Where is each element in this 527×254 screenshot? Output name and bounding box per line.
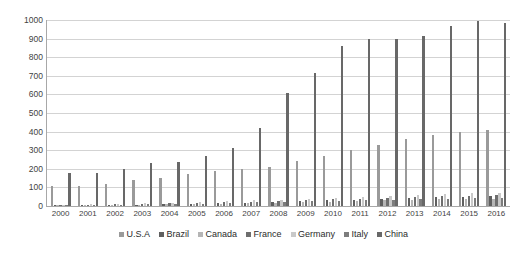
bar [141, 204, 143, 206]
bar [123, 169, 125, 206]
bar [241, 169, 243, 206]
bar-group [483, 20, 510, 206]
bar [277, 201, 279, 206]
bar-group [347, 20, 374, 206]
bar [389, 196, 391, 206]
bar [93, 205, 95, 206]
bar [329, 202, 331, 206]
bar [51, 186, 53, 206]
bar-group [401, 20, 428, 206]
y-axis-tick-label: 600 [2, 90, 43, 99]
bar [365, 200, 367, 206]
bar [450, 26, 452, 206]
bar [150, 163, 152, 206]
bar [202, 204, 204, 206]
bar [220, 204, 222, 206]
bar [323, 156, 325, 206]
bar [356, 201, 358, 206]
bar [435, 197, 437, 206]
y-axis-tick-label: 100 [2, 183, 43, 192]
bar [477, 21, 479, 206]
x-axis-tick-label: 2014 [428, 209, 455, 218]
gridline [47, 206, 510, 207]
legend-swatch-icon [198, 232, 203, 237]
bar [465, 199, 467, 206]
bar [147, 204, 149, 206]
x-axis-tick-label: 2009 [292, 209, 319, 218]
bar [438, 199, 440, 206]
y-axis-tick-label: 900 [2, 35, 43, 44]
bar-group [456, 20, 483, 206]
bar [159, 178, 161, 206]
x-axis-tick-label: 2011 [347, 209, 374, 218]
bar [214, 171, 216, 206]
bar [190, 204, 192, 206]
bar [271, 202, 273, 206]
bar [362, 197, 364, 206]
bar [259, 128, 261, 206]
bar [299, 201, 301, 206]
y-axis-tick-label: 400 [2, 128, 43, 137]
bar [498, 193, 500, 206]
bar [171, 203, 173, 206]
legend-item[interactable]: Germany [291, 230, 336, 239]
y-axis-tick-label: 300 [2, 146, 43, 155]
bar [501, 198, 503, 206]
x-axis-tick-label: 2006 [210, 209, 237, 218]
x-axis-tick-label: 2004 [156, 209, 183, 218]
bar-group [101, 20, 128, 206]
y-axis-tick-label: 0 [2, 202, 43, 211]
chart-legend: U.S.ABrazilCanadaFranceGermanyItalyChina [0, 230, 527, 239]
bar [229, 203, 231, 206]
bar [486, 130, 488, 206]
bar [117, 204, 119, 206]
legend-swatch-icon [119, 232, 124, 237]
bar-group [374, 20, 401, 206]
legend-item[interactable]: Brazil [159, 230, 189, 239]
legend-item[interactable]: U.S.A [119, 230, 150, 239]
y-axis-tick-label: 200 [2, 165, 43, 174]
x-axis-tick-label: 2007 [238, 209, 265, 218]
bar [250, 202, 252, 206]
legend-item[interactable]: France [246, 230, 282, 239]
bar [489, 196, 491, 206]
bar [350, 150, 352, 206]
y-axis-tick-label: 500 [2, 109, 43, 118]
bar [84, 205, 86, 206]
bar [96, 173, 98, 206]
bar-group [47, 20, 74, 206]
bar-group [183, 20, 210, 206]
bar [244, 203, 246, 206]
x-axis-tick-label: 2015 [456, 209, 483, 218]
bar [56, 205, 58, 206]
legend-swatch-icon [246, 232, 251, 237]
bar [283, 202, 285, 206]
bar [247, 203, 249, 206]
bar [302, 202, 304, 206]
bar [196, 203, 198, 206]
bar [492, 199, 494, 206]
legend-item[interactable]: Canada [198, 230, 237, 239]
bar-chart: 10009008007006005004003002001000 2000200… [0, 0, 527, 254]
bar [286, 93, 288, 206]
bar [359, 199, 361, 206]
plot-area [47, 20, 510, 206]
x-axis-tick-label: 2000 [47, 209, 74, 218]
legend-item[interactable]: China [377, 230, 408, 239]
x-axis-tick-label: 2013 [401, 209, 428, 218]
bar [105, 184, 107, 206]
legend-swatch-icon [344, 232, 349, 237]
bar [432, 135, 434, 206]
bar [411, 200, 413, 206]
legend-item[interactable]: Italy [344, 230, 368, 239]
bar [108, 205, 110, 206]
bar [59, 205, 61, 206]
y-axis-tick-label: 1000 [2, 16, 43, 25]
bar [144, 203, 146, 206]
x-axis-tick-label: 2008 [265, 209, 292, 218]
bar [380, 199, 382, 206]
legend-item-label: U.S.A [126, 230, 150, 239]
bar [305, 200, 307, 206]
bar [441, 196, 443, 206]
bar [65, 205, 67, 206]
